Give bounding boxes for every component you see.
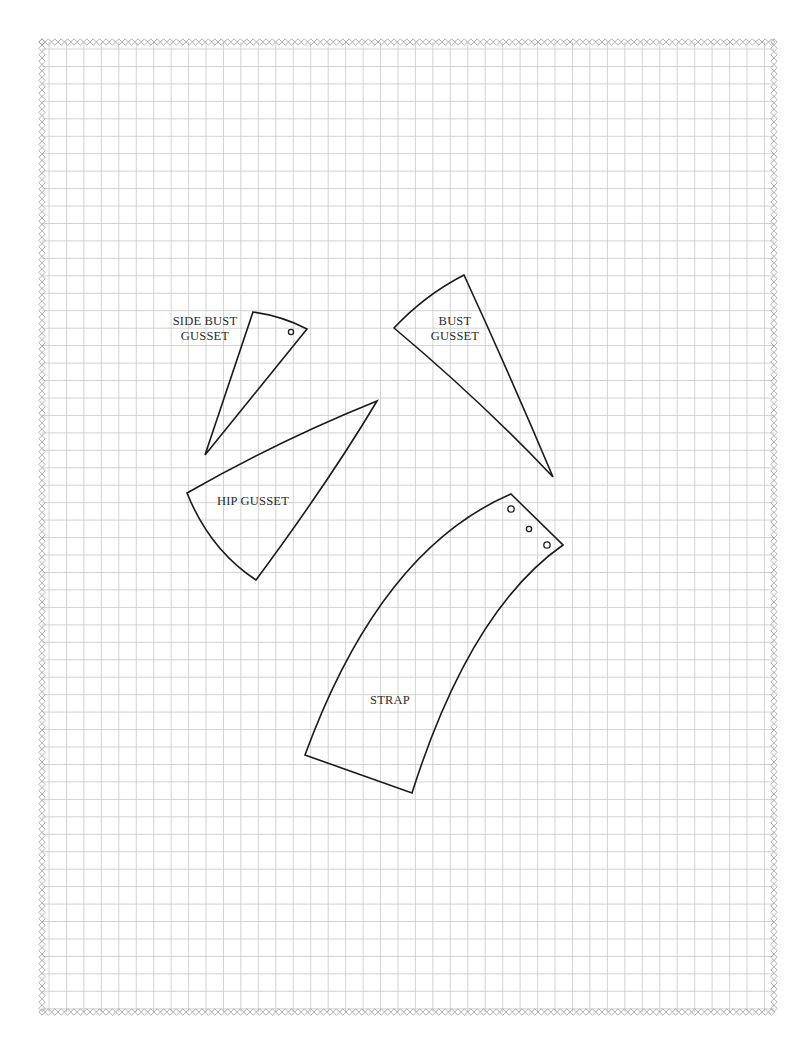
strap-hole-3 — [544, 542, 550, 548]
hip-gusset-piece — [187, 401, 377, 580]
side-bust-gusset-label: SIDE BUST GUSSET — [162, 314, 248, 344]
strap-hole-2 — [526, 526, 531, 531]
bust-gusset-label-line2: GUSSET — [420, 329, 490, 344]
hip-gusset-label: HIP GUSSET — [208, 494, 298, 509]
strap-label: STRAP — [360, 693, 420, 708]
bust-gusset-label-line1: BUST — [420, 314, 490, 329]
strap-outline — [305, 494, 563, 793]
bust-gusset-piece — [394, 275, 553, 477]
strap-piece — [305, 494, 563, 793]
pattern-sheet — [0, 0, 798, 1054]
strap-label-line1: STRAP — [360, 693, 420, 708]
side-bust-gusset-label-line1: SIDE BUST — [162, 314, 248, 329]
strap-hole-1 — [508, 506, 514, 512]
decorative-chain-border — [39, 39, 777, 1015]
bust-gusset-label: BUST GUSSET — [420, 314, 490, 344]
hip-gusset-label-line1: HIP GUSSET — [208, 494, 298, 509]
graph-paper-grid — [42, 42, 774, 1012]
bust-gusset-outline — [394, 275, 553, 477]
side-bust-gusset-label-line2: GUSSET — [162, 329, 248, 344]
side-bust-gusset-hole — [288, 329, 293, 334]
hip-gusset-outline — [187, 401, 377, 580]
